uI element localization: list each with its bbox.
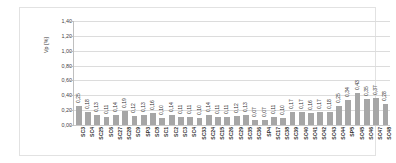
- y-tick-label: 0,00: [48, 122, 72, 128]
- x-label-slot: SC40: [297, 126, 306, 160]
- bar[interactable]: [141, 115, 147, 125]
- bar-slot: 0,11: [269, 21, 278, 125]
- bar-value-label: 0,11: [187, 104, 192, 113]
- bar[interactable]: [215, 117, 221, 125]
- bar[interactable]: [169, 115, 175, 125]
- bar[interactable]: [243, 115, 249, 125]
- x-label-slot: SC35: [241, 126, 250, 160]
- x-label-slot: SC9: [130, 126, 139, 160]
- bar[interactable]: [197, 118, 203, 125]
- bar-slot: 0,17: [316, 21, 325, 125]
- bar-value-label: 0,43: [355, 80, 360, 90]
- bar-value-label: 0,11: [215, 104, 220, 113]
- bar-value-label: 0,14: [169, 102, 174, 112]
- bar-slot: 0,07: [251, 21, 260, 125]
- bar-slot: 0,11: [213, 21, 222, 125]
- bar-value-label: 0,35: [364, 86, 369, 96]
- bar[interactable]: [234, 116, 240, 125]
- bar-slot: 0,16: [148, 21, 157, 125]
- bar-value-label: 0,12: [234, 103, 239, 113]
- bar[interactable]: [76, 106, 82, 125]
- bar[interactable]: [373, 98, 379, 125]
- bar[interactable]: [336, 106, 342, 125]
- bar-series: 0,250,180,130,110,140,190,120,130,160,10…: [74, 21, 390, 125]
- bar-slot: 0,14: [167, 21, 176, 125]
- bar[interactable]: [187, 117, 193, 125]
- y-tick-mark: [70, 95, 73, 96]
- bar-value-label: 0,17: [290, 100, 295, 110]
- bar-value-label: 0,10: [197, 105, 202, 115]
- bar[interactable]: [383, 104, 389, 125]
- bar[interactable]: [364, 99, 370, 125]
- bar[interactable]: [94, 115, 100, 125]
- bar[interactable]: [308, 113, 314, 125]
- bar-slot: 0,11: [102, 21, 111, 125]
- bar[interactable]: [262, 120, 268, 125]
- bar[interactable]: [122, 111, 128, 125]
- bar[interactable]: [252, 120, 258, 125]
- y-tick-label: 0,80: [48, 63, 72, 69]
- bar-slot: 0,18: [83, 21, 92, 125]
- x-label-slot: SP3: [139, 126, 148, 160]
- bar[interactable]: [290, 112, 296, 125]
- bar[interactable]: [178, 117, 184, 125]
- bar[interactable]: [150, 113, 156, 125]
- bar-slot: 0,34: [344, 21, 353, 125]
- y-tick-mark: [70, 21, 73, 22]
- bar-value-label: 0,17: [299, 100, 304, 110]
- x-label-slot: SC15: [213, 126, 222, 160]
- y-tick-label: 1,00: [48, 48, 72, 54]
- bar-slot: 0,16: [306, 21, 315, 125]
- bar[interactable]: [280, 118, 286, 125]
- bar-slot: 0,14: [204, 21, 213, 125]
- bar[interactable]: [224, 117, 230, 125]
- bar-value-label: 0,10: [280, 105, 285, 115]
- bar-value-label: 0,14: [206, 102, 211, 112]
- x-label-slot: SC1: [158, 126, 167, 160]
- bar-value-label: 0,11: [271, 104, 276, 113]
- bar[interactable]: [355, 93, 361, 125]
- bar[interactable]: [345, 100, 351, 125]
- bar[interactable]: [104, 117, 110, 125]
- bar-slot: 0,10: [195, 21, 204, 125]
- bar-value-label: 0,13: [141, 103, 146, 113]
- bar[interactable]: [299, 112, 305, 125]
- y-tick-mark: [70, 66, 73, 67]
- x-label-slot: SC24: [204, 126, 213, 160]
- x-label-slot: SC2: [167, 126, 176, 160]
- bar-value-label: 0,10: [160, 105, 165, 115]
- bar-slot: 0,37: [372, 21, 381, 125]
- x-label-slot: SC8: [148, 126, 157, 160]
- bar-slot: 0,14: [111, 21, 120, 125]
- bar[interactable]: [159, 118, 165, 125]
- bar-slot: 0,13: [241, 21, 250, 125]
- x-label-slot: SC42: [316, 126, 325, 160]
- x-label-slot: SP4: [260, 126, 269, 160]
- y-tick-mark: [70, 110, 73, 111]
- x-label-slot: SP5: [344, 126, 353, 160]
- bar-slot: 0,25: [334, 21, 343, 125]
- bar[interactable]: [271, 117, 277, 125]
- y-tick-label: 0,20: [48, 107, 72, 113]
- bar-slot: 0,25: [74, 21, 83, 125]
- bar-slot: 0,10: [279, 21, 288, 125]
- x-label-slot: SC46: [362, 126, 371, 160]
- bar[interactable]: [327, 112, 333, 125]
- bar-slot: 0,11: [176, 21, 185, 125]
- bar[interactable]: [132, 116, 138, 125]
- bar-value-label: 0,07: [262, 107, 267, 117]
- bar[interactable]: [85, 112, 91, 125]
- x-label-slot: SC4: [186, 126, 195, 160]
- bar[interactable]: [317, 112, 323, 125]
- y-tick-mark: [70, 51, 73, 52]
- x-label-slot: SC3: [74, 126, 83, 160]
- bar-value-label: 0,14: [113, 102, 118, 112]
- bar-slot: 0,18: [325, 21, 334, 125]
- bar-slot: 0,19: [120, 21, 129, 125]
- x-label-slot: SC17: [269, 126, 278, 160]
- bar[interactable]: [206, 115, 212, 125]
- x-label-slot: SC47: [372, 126, 381, 160]
- y-tick-mark: [70, 80, 73, 81]
- bar-slot: 0,12: [232, 21, 241, 125]
- bar[interactable]: [113, 115, 119, 125]
